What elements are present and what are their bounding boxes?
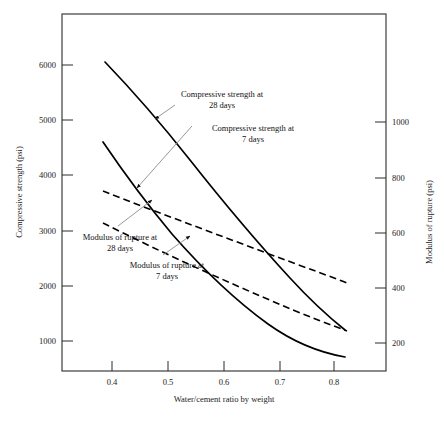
annotation-line-2: 7 days: [242, 134, 264, 144]
annotation-line-2: 28 days: [107, 243, 133, 253]
right-tick-label: 400: [392, 283, 405, 293]
bottom-tick-label: 0.5: [163, 377, 174, 387]
bottom-tick-label: 0.6: [219, 377, 230, 387]
left-tick-label: 6000: [39, 60, 56, 70]
chart-figure: 6000 5000 4000 3000 2000 1000 Compressiv…: [0, 0, 444, 445]
right-tick-label: 200: [392, 338, 405, 348]
right-axis-title: Modulus of rupture (psi): [424, 180, 434, 264]
annotation-line-1: Modulus of rupture at: [83, 232, 158, 242]
annotation-line-1: Compressive strength at: [181, 89, 264, 99]
bottom-tick-label: 0.4: [107, 377, 118, 387]
left-tick-label: 5000: [39, 115, 56, 125]
left-tick-label: 4000: [39, 170, 56, 180]
left-tick-label: 2000: [39, 281, 56, 291]
bottom-tick-label: 0.8: [329, 377, 340, 387]
annotation-line-2: 28 days: [209, 100, 235, 110]
annotation-line-2: 7 days: [156, 271, 178, 281]
chart-svg: 6000 5000 4000 3000 2000 1000 Compressiv…: [0, 0, 444, 445]
left-tick-label: 1000: [39, 336, 56, 346]
left-tick-label: 3000: [39, 226, 56, 236]
right-tick-label: 600: [392, 228, 405, 238]
right-tick-label: 1000: [392, 117, 409, 127]
bottom-tick-label: 0.7: [275, 377, 286, 387]
right-tick-label: 800: [392, 173, 405, 183]
annotation-line-1: Compressive strength at: [212, 123, 295, 133]
bottom-axis-title: Water/cement ratio by weight: [174, 394, 275, 404]
left-axis-title: Compressive strength (psi): [14, 146, 24, 238]
annotation-line-1: Modulus of rupture at: [130, 260, 205, 270]
